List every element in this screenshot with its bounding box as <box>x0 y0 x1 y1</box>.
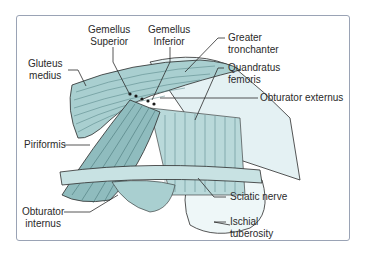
label-line: internus <box>22 218 64 230</box>
label-quadratus-femoris: Quandratus femoris <box>228 62 280 86</box>
label-line: Gemellus <box>148 24 190 36</box>
label-line: tronchanter <box>228 44 279 56</box>
label-obturator-externus: Obturator externus <box>260 92 343 104</box>
label-gluteus-medius: Gluteus medius <box>28 58 62 82</box>
label-ischial-tuberosity: Ischial tuberosity <box>230 216 273 240</box>
label-line: Ischial <box>230 216 273 228</box>
label-line: Inferior <box>148 36 190 48</box>
label-line: femoris <box>228 74 280 86</box>
label-line: Superior <box>88 36 130 48</box>
label-piriformis: Piriformis <box>24 139 66 151</box>
label-line: medius <box>28 70 62 82</box>
label-gemellus-superior: Gemellus Superior <box>88 24 130 48</box>
label-sciatic-nerve: Sciatic nerve <box>230 191 287 203</box>
label-line: Quandratus <box>228 62 280 74</box>
label-line: Gluteus <box>28 58 62 70</box>
label-line: Greater <box>228 32 279 44</box>
label-greater-trochanter: Greater tronchanter <box>228 32 279 56</box>
label-line: Obturator <box>22 206 64 218</box>
label-gemellus-inferior: Gemellus Inferior <box>148 24 190 48</box>
label-line: Gemellus <box>88 24 130 36</box>
label-obturator-internus: Obturator internus <box>22 206 64 230</box>
label-line: tuberosity <box>230 228 273 240</box>
